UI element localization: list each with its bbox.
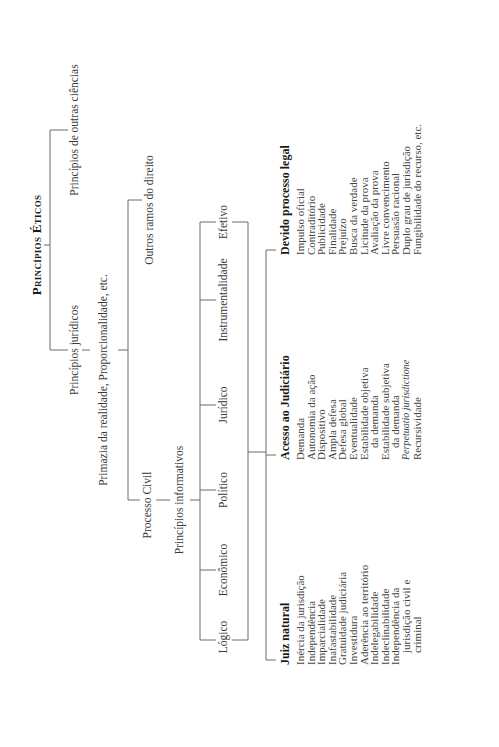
- node-primazia-realidade: Primazia da realidade, Proporcionalidade…: [98, 274, 110, 486]
- informativo-instrumentalidade: Instrumentalidade: [218, 258, 230, 341]
- column-header: Devido processo legal: [279, 124, 291, 255]
- list-item: Recursividade: [412, 355, 423, 460]
- column-juiz-natural: Juiz natural Inércia da jurisdiçãoIndepe…: [279, 565, 422, 665]
- informativo-logico: Lógico: [218, 621, 230, 654]
- informativo-politico: Político: [218, 472, 230, 508]
- list-item: criminal: [412, 565, 423, 665]
- column-devido-processo: Devido processo legal Impulso oficialCon…: [279, 124, 422, 255]
- list-item: Impulso oficial: [295, 124, 306, 255]
- informativo-economico: Econômico: [218, 544, 230, 596]
- list-item: Inércia da jurisdição: [295, 565, 306, 665]
- node-principios-outras-ciencias: Princípios de outras ciências: [69, 64, 81, 195]
- list-item: Demanda: [295, 355, 306, 460]
- node-outros-ramos: Outros ramos do direito: [144, 155, 156, 265]
- list-item: Fungibilidade do recurso, etc.: [412, 124, 423, 255]
- list-item: Investidura: [348, 565, 359, 665]
- informativo-efetivo: Efetivo: [218, 205, 230, 239]
- root-title: Princípios Éticos: [30, 195, 43, 295]
- list-item: Eventualidade: [348, 355, 359, 460]
- column-header: Juiz natural: [279, 565, 291, 665]
- list-item: Duplo grau de jurisdição: [401, 124, 412, 255]
- rotated-diagram: Princípios Éticos Princípios jurídicos P…: [0, 0, 499, 747]
- list-item: Busca da verdade: [348, 124, 359, 255]
- informativo-juridico: Jurídico: [218, 386, 230, 423]
- list-item: Perpetuatio jurisdictione: [401, 355, 412, 460]
- column-acesso-judiciario: Acesso ao Judiciário DemandaAutonomia da…: [279, 355, 422, 460]
- node-principios-informativos: Princípios informativos: [174, 446, 186, 554]
- list-item: jurisdição civil e: [401, 565, 412, 665]
- node-principios-juridicos: Princípios jurídicos: [69, 305, 81, 395]
- node-processo-civil: Processo Civil: [142, 472, 154, 539]
- column-header: Acesso ao Judiciário: [279, 355, 291, 460]
